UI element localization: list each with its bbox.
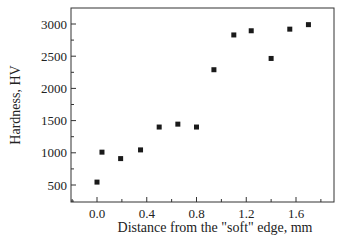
data-point-marker [249,28,254,33]
x-tick-label: 0.8 [188,206,204,221]
data-point-marker [287,27,292,32]
data-point-marker [175,122,180,127]
x-tick-label: 1.6 [288,206,305,221]
data-point-marker [269,56,274,61]
data-point-marker [157,125,162,130]
data-point-marker [99,150,104,155]
y-tick-label: 500 [48,178,68,193]
scatter-chart: 0.00.40.81.21.6 50010001500200025003000 … [0,0,341,247]
y-tick-label: 2500 [41,49,67,64]
x-tick-label: 1.2 [238,206,254,221]
data-points [95,22,311,184]
y-tick-label: 1000 [41,145,67,160]
y-tick-label: 2000 [41,81,67,96]
data-point-marker [231,32,236,37]
y-axis-label: Hardness, HV [8,65,23,144]
data-point-marker [194,125,199,130]
plot-frame [71,8,334,202]
x-axis: 0.00.40.81.21.6 [72,197,321,221]
data-point-marker [211,67,216,72]
data-point-marker [138,147,143,152]
y-tick-label: 3000 [41,17,67,32]
data-point-marker [118,156,123,161]
data-point-marker [95,180,100,185]
x-axis-label: Distance from the "soft" edge, mm [118,220,313,235]
y-tick-label: 1500 [41,113,67,128]
x-tick-label: 0.4 [139,206,156,221]
data-point-marker [306,22,311,27]
x-tick-label: 0.0 [89,206,105,221]
